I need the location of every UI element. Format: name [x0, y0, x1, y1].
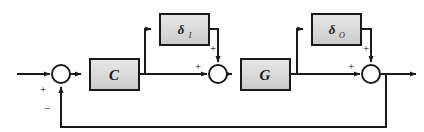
block-delta-o-subscript: O — [339, 31, 345, 40]
summing-junction-output-uncertainty-circle — [362, 65, 380, 83]
block-delta-o-label: δ — [329, 22, 336, 37]
sign-plus-delta-o-path: + — [363, 42, 369, 54]
block-controller-label: C — [109, 67, 120, 83]
sign-minus-feedback: − — [44, 102, 50, 114]
block-plant-label: G — [260, 67, 271, 83]
sign-plus-plant-path: + — [348, 60, 354, 72]
wire-branch-to-delta-o — [297, 29, 303, 74]
block-delta-i-body — [160, 14, 209, 45]
block-plant[interactable]: G — [241, 59, 290, 90]
block-delta-o-body — [312, 14, 361, 45]
block-delta-i-subscript: I — [188, 31, 192, 40]
summing-junction-input-uncertainty-circle — [209, 65, 227, 83]
sign-plus-delta-i-path: + — [210, 42, 216, 54]
sign-plus-controller-path: + — [195, 60, 201, 72]
summing-junction-output-uncertainty[interactable]: + + — [348, 42, 380, 83]
block-diagram-canvas: δ I δ O C G + − + + — [0, 0, 424, 132]
block-diagram-svg: δ I δ O C G + − + + — [0, 0, 424, 132]
summing-junction-error-circle — [52, 65, 70, 83]
block-delta-o[interactable]: δ O — [312, 14, 361, 45]
block-delta-i-label: δ — [178, 22, 185, 37]
wire-branch-to-delta-i — [145, 29, 151, 74]
block-controller[interactable]: C — [90, 59, 139, 90]
summing-junction-error[interactable]: + − — [40, 65, 70, 114]
sign-plus-reference: + — [40, 83, 46, 95]
summing-junction-input-uncertainty[interactable]: + + — [195, 42, 227, 83]
block-delta-i[interactable]: δ I — [160, 14, 209, 45]
